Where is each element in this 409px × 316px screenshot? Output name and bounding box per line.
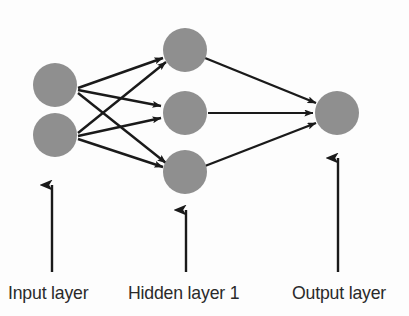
edge-h1-o1 [205,58,316,103]
layer-label-output: Output layer [292,283,386,302]
neuron-hidden-2 [163,91,207,135]
neuron-hidden-3 [163,150,207,194]
neural-network-diagram: Input layer Hidden layer 1 Output layer [0,0,409,316]
network-canvas [0,0,409,316]
neuron-hidden-1 [163,28,207,72]
edge-i1-h1 [78,58,163,88]
output-layer-nodes [315,91,359,135]
neuron-input-1 [33,63,77,107]
layer-label-input: Input layer [8,283,88,302]
edge-h3-o1 [205,123,316,166]
layer-label-hidden: Hidden layer 1 [128,283,239,302]
neuron-output-1 [315,91,359,135]
neuron-input-2 [33,113,77,157]
hidden-layer-nodes [163,28,207,194]
edge-i2-h2 [78,118,161,136]
input-layer-nodes [33,63,77,157]
edges-hidden-to-output [205,58,316,166]
edge-i2-h3 [78,139,163,167]
edges-input-to-hidden [78,58,166,167]
